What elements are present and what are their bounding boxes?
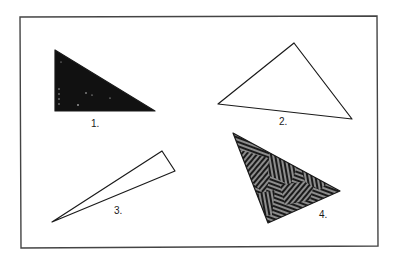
label-3: 3. <box>114 205 122 216</box>
label-4: 4. <box>319 209 327 220</box>
label-2: 2. <box>279 116 287 127</box>
triangles-figure: 1. 2. 3. 4. <box>0 0 401 258</box>
triangle-2 <box>218 43 352 119</box>
label-1: 1. <box>91 118 99 129</box>
triangle-1 <box>55 50 155 111</box>
